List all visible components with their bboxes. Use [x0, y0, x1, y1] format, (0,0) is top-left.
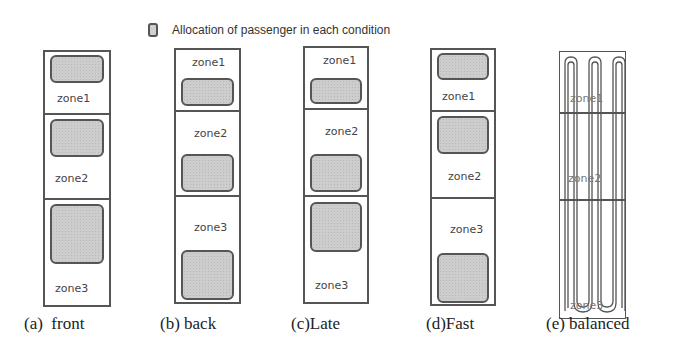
passenger-block: [181, 154, 234, 192]
caption-back: (b) back: [160, 314, 216, 334]
zone-3: zone3: [45, 200, 109, 305]
zone-label: zone1: [57, 92, 90, 105]
zone-label: zone2: [325, 125, 358, 138]
passenger-block: [50, 55, 104, 83]
passenger-allocation-swatch-icon: [148, 23, 158, 37]
passenger-block: [310, 202, 362, 252]
caption-front: (a) front: [24, 314, 84, 334]
caption-fast: (d)Fast: [426, 314, 474, 334]
zone-2: zone2: [176, 112, 239, 197]
zone-3: zone3: [176, 197, 239, 302]
caption-late: (c)Late: [291, 314, 340, 334]
zone-2: zone2: [432, 112, 494, 199]
zone-label: zone1: [323, 54, 356, 67]
panel-balanced: zone1 zone2 zone3: [559, 51, 626, 319]
passenger-block: [437, 253, 489, 303]
passenger-block: [50, 119, 104, 157]
zone-2: zone2: [305, 110, 367, 197]
passenger-block: [310, 154, 362, 192]
passenger-block: [50, 204, 104, 264]
zone-label: zone1: [570, 92, 603, 105]
zone-label: zone3: [570, 299, 603, 312]
panel-late: zone1 zone2 zone3: [303, 46, 369, 304]
passenger-block: [437, 53, 489, 80]
zone-label: zone2: [448, 170, 481, 183]
legend-text: Allocation of passenger in each conditio…: [172, 23, 390, 37]
zone-label: zone3: [55, 282, 88, 295]
zone-label: zone2: [568, 172, 601, 185]
zone-label: zone3: [450, 223, 483, 236]
passenger-block: [437, 116, 489, 154]
zone-1: zone1: [432, 50, 494, 112]
zone-1: zone1: [176, 50, 239, 112]
zone-3: zone3: [432, 199, 494, 304]
zone-label: zone2: [55, 172, 88, 185]
zone-label: zone3: [194, 221, 227, 234]
zone-2: zone2: [45, 115, 109, 200]
passenger-block: [310, 78, 362, 104]
panel-fast: zone1 zone2 zone3: [430, 48, 496, 306]
zone-label: zone2: [194, 127, 227, 140]
zone-label: zone1: [192, 56, 225, 69]
zone-label: zone1: [442, 90, 475, 103]
passenger-block: [181, 250, 234, 300]
passenger-block: [181, 78, 234, 106]
panel-back: zone1 zone2 zone3: [174, 48, 241, 304]
zone-1: zone1: [305, 48, 367, 110]
zone-label: zone3: [315, 279, 348, 292]
zone-3: zone3: [305, 197, 367, 302]
panel-front: zone1 zone2 zone3: [43, 50, 111, 307]
legend: Allocation of passenger in each conditio…: [148, 20, 390, 40]
zone-1: zone1: [45, 52, 109, 115]
caption-balanced: (e) balanced: [546, 314, 630, 334]
